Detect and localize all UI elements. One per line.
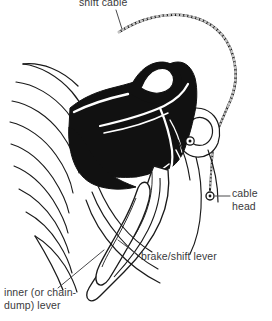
upper-pivot-bolt	[186, 137, 194, 145]
label-shift-cable: shift cable	[79, 0, 127, 9]
label-inner-lever: inner (or chain- dump) lever	[4, 286, 76, 311]
label-cable-head: cable head	[232, 187, 258, 212]
cable-head-barrel	[206, 192, 214, 200]
lever-diagram-figure: shift cable cable head brake/shift lever…	[0, 0, 272, 321]
label-brake-shift-lever: brake/shift lever	[141, 250, 217, 263]
handlebar-tape-wrap	[10, 64, 92, 292]
lever-body-hood	[69, 62, 197, 189]
leader-shift-cable	[116, 10, 122, 29]
diagram-canvas	[0, 0, 272, 321]
